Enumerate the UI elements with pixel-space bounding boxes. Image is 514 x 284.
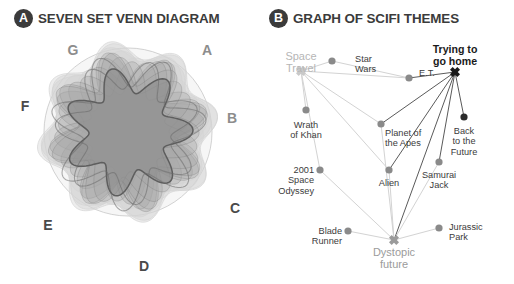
venn-set-label-a: A — [202, 42, 212, 58]
venn-set-label-b: B — [227, 110, 237, 126]
venn-set-label-f: F — [21, 98, 30, 114]
graph-node-2001-space-odyssey[interactable] — [316, 166, 323, 173]
graph-edge — [394, 228, 439, 240]
graph-label-alien: Alien — [379, 178, 399, 188]
graph-edge — [348, 231, 394, 240]
graph-label-jurassic-park: Jurassic Park — [449, 222, 483, 243]
graph-node-planet-of-the-apes[interactable] — [377, 120, 384, 127]
graph-node-blade-runner[interactable] — [344, 227, 351, 234]
venn-set-label-e: E — [43, 217, 52, 233]
graph-label-back-to-the-future: Back to the Future — [451, 126, 478, 157]
graph-node-alien[interactable] — [385, 166, 392, 173]
graph-nodes — [296, 57, 468, 245]
graph-edges — [301, 61, 464, 240]
graph-label-blade-runner: Blade Runner — [312, 226, 342, 247]
graph-node-wrath-of-khan[interactable] — [302, 106, 309, 113]
graph-node-star-wars[interactable] — [328, 57, 335, 64]
graph-label-trying-to-go-home: Trying to go home — [433, 44, 478, 67]
panel-scifi-graph: B GRAPH OF SCIFI THEMES Space TravelStar… — [257, 0, 514, 284]
graph-label-star-wars: Star Wars — [355, 54, 376, 75]
venn-set-label-c: C — [230, 200, 240, 216]
graph-edge — [389, 72, 455, 170]
venn-set-label-d: D — [139, 258, 149, 274]
panel-a-title: SEVEN SET VENN DIAGRAM — [38, 11, 220, 26]
venn-svg — [0, 28, 257, 284]
graph-label-2001-space-odyssey: 2001 Space Odyssey — [278, 165, 314, 196]
graph-node-et[interactable] — [405, 74, 412, 81]
graph-label-samurai-jack: Samurai Jack — [422, 170, 456, 191]
graph-label-et: E.T. — [419, 68, 435, 78]
venn-diagram: GAFBCED — [0, 28, 257, 284]
graph-node-back-to-the-future[interactable] — [460, 113, 467, 120]
graph-label-dystopic-future: Dystopic future — [373, 246, 415, 271]
graph-label-planet-of-the-apes: Planet of the Apes — [385, 128, 421, 149]
graph-label-space-travel: Space Travel — [285, 50, 316, 75]
graph-label-wrath-of-khan: Wrath of Khan — [290, 120, 322, 141]
panel-a-badge: A — [14, 9, 33, 28]
graph-node-jurassic-park[interactable] — [435, 224, 442, 231]
graph-edge — [394, 72, 455, 240]
panel-venn-diagram: A SEVEN SET VENN DIAGRAM GAFBCED — [0, 0, 257, 284]
panel-a-header: A SEVEN SET VENN DIAGRAM — [14, 9, 220, 28]
graph-node-samurai-jack[interactable] — [435, 158, 442, 165]
venn-set-label-g: G — [68, 42, 79, 58]
graph-edge — [455, 72, 464, 117]
figure-root: A SEVEN SET VENN DIAGRAM GAFBCED B GRAPH… — [0, 0, 514, 284]
graph-edge — [381, 72, 455, 124]
scifi-graph: Space TravelStar WarsE.T.Trying to go ho… — [257, 0, 514, 284]
